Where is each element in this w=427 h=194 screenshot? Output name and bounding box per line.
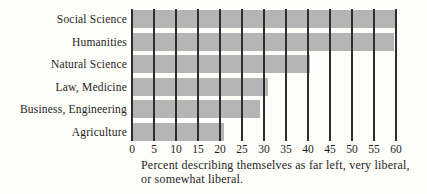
bar-chart-figure: Social ScienceHumanitiesNatural ScienceL… [0, 0, 427, 194]
x-axis-caption-line-2: or somewhat liberal. [141, 173, 421, 187]
bar-agriculture [132, 123, 224, 141]
gridline-40 [307, 9, 309, 141]
x-tick-label-20: 20 [208, 143, 232, 155]
category-label-natural-science: Natural Science [0, 55, 127, 73]
x-tick-label-50: 50 [340, 143, 364, 155]
bar-natural-science [132, 55, 310, 73]
gridline-15 [197, 9, 199, 141]
x-tick-label-40: 40 [296, 143, 320, 155]
gridline-35 [285, 9, 287, 141]
x-tick-label-35: 35 [274, 143, 298, 155]
category-label-business-engineering: Business, Engineering [0, 100, 127, 118]
x-tick-label-25: 25 [230, 143, 254, 155]
x-axis-caption-line-1: Percent describing themselves as far lef… [141, 159, 421, 173]
gridline-5 [153, 9, 155, 141]
x-tick-label-5: 5 [142, 143, 166, 155]
x-tick-label-10: 10 [164, 143, 188, 155]
gridline-45 [329, 9, 331, 141]
x-tick-label-45: 45 [318, 143, 342, 155]
gridline-0 [131, 9, 133, 141]
category-label-humanities: Humanities [0, 33, 127, 51]
gridline-50 [351, 9, 353, 141]
gridline-55 [373, 9, 375, 141]
x-axis-caption: Percent describing themselves as far lef… [141, 159, 421, 186]
gridline-25 [241, 9, 243, 141]
x-tick-label-30: 30 [252, 143, 276, 155]
category-label-social-science: Social Science [0, 10, 127, 28]
x-tick-label-15: 15 [186, 143, 210, 155]
gridline-30 [263, 9, 265, 141]
x-tick-label-55: 55 [362, 143, 386, 155]
category-label-agriculture: Agriculture [0, 123, 127, 141]
gridline-10 [175, 9, 177, 141]
category-label-law-medicine: Law, Medicine [0, 78, 127, 96]
gridline-20 [219, 9, 221, 141]
plot-area [132, 9, 396, 141]
x-tick-label-0: 0 [120, 143, 144, 155]
x-tick-label-60: 60 [384, 143, 408, 155]
gridline-60 [395, 9, 397, 141]
